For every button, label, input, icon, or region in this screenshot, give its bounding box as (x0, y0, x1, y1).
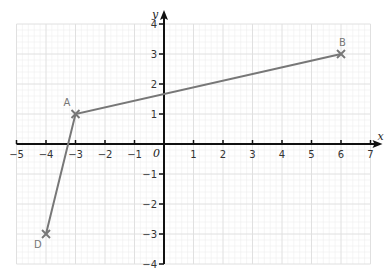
y-tick-label: 1 (151, 109, 157, 120)
x-tick-label: −5 (9, 149, 24, 160)
point-label-b: B (339, 37, 346, 48)
point-label-a: A (64, 97, 71, 108)
x-tick-label: 5 (308, 149, 314, 160)
x-tick-label: −3 (68, 149, 83, 160)
y-tick-label: 3 (151, 49, 157, 60)
x-tick-label: 2 (220, 149, 226, 160)
x-axis-label: x (378, 130, 385, 143)
y-tick-label: −2 (142, 199, 157, 210)
coordinate-graph: −5−4−3−2−11234567−4−3−2−11234 DAB x y 0 (0, 0, 391, 276)
x-tick-label: 3 (249, 149, 255, 160)
x-tick-label: 4 (279, 149, 285, 160)
y-axis-label: y (151, 8, 159, 21)
x-tick-label: 7 (367, 149, 373, 160)
x-tick-label: −4 (39, 149, 54, 160)
x-tick-label: −1 (127, 149, 142, 160)
origin-label: 0 (153, 147, 160, 160)
y-tick-label: −4 (142, 259, 157, 270)
y-tick-label: −1 (142, 169, 157, 180)
y-tick-label: −3 (142, 229, 157, 240)
point-label-d: D (34, 239, 42, 250)
y-tick-label: 2 (151, 79, 157, 90)
x-tick-label: 1 (190, 149, 196, 160)
x-tick-label: −2 (98, 149, 113, 160)
x-tick-label: 6 (338, 149, 344, 160)
